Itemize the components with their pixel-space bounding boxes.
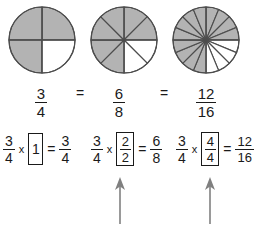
multiplication-row: 3 4 x 1 = 3 4 3 4 x 2 2 =	[0, 126, 256, 172]
boxed-multiplier-four-fourths: 4 4	[201, 132, 219, 166]
fraction-denominator: 4	[35, 103, 47, 119]
fraction-numerator: 3	[91, 134, 103, 149]
boxed-multiplier-two-halves: 2 2	[116, 132, 134, 166]
equals-symbol: =	[47, 142, 55, 156]
fraction-numerator: 3	[176, 134, 188, 149]
fraction-denominator: 4	[176, 150, 188, 165]
equals-symbol: =	[223, 142, 231, 156]
fraction-denominator: 16	[235, 150, 253, 164]
fraction-numerator: 12	[196, 86, 217, 102]
equation-fraction-six-eighths: 6 8	[102, 86, 136, 119]
equation-fraction-three-fourths: 3 4	[24, 86, 58, 119]
mult-result-fraction: 6 8	[150, 134, 162, 165]
boxed-fraction: 4 4	[205, 135, 216, 164]
equals-label: =	[160, 86, 168, 100]
arrow-to-four-fourths-icon	[202, 176, 218, 226]
fraction-numerator: 12	[235, 135, 253, 149]
equals-label: =	[76, 86, 84, 100]
equivalence-equation-row: 3 4 = 6 8 = 12 16	[0, 86, 256, 122]
fraction-denominator: 4	[91, 150, 103, 165]
boxed-value: 1	[32, 141, 40, 157]
mult-result-fraction: 12 16	[235, 135, 253, 164]
equation-equals-sign-2: =	[150, 86, 178, 100]
multiply-by-two-halves-expression: 3 4 x 2 2 = 6 8	[91, 126, 162, 172]
equation-equals-sign-1: =	[66, 86, 94, 100]
fraction-numerator: 3	[3, 134, 15, 149]
times-symbol: x	[192, 144, 198, 155]
pie-diagrams-row	[0, 0, 256, 84]
fraction-numerator: 2	[120, 135, 131, 149]
times-symbol: x	[19, 144, 25, 155]
pie-twelve-sixteenths	[172, 6, 240, 74]
mult-result-fraction: 3 4	[59, 134, 71, 165]
fraction-numerator: 3	[59, 134, 71, 149]
mult-left-fraction: 3 4	[91, 134, 103, 165]
multiply-by-one-expression: 3 4 x 1 = 3 4	[3, 126, 71, 172]
pie-six-eighths	[90, 6, 158, 74]
equals-symbol: =	[138, 142, 146, 156]
boxed-fraction: 2 2	[120, 135, 131, 164]
fraction-numerator: 6	[113, 86, 125, 102]
equation-fraction-twelve-sixteenths: 12 16	[186, 86, 226, 119]
multiply-by-four-fourths-expression: 3 4 x 4 4 = 12 16	[176, 126, 254, 172]
boxed-multiplier-one: 1	[28, 133, 43, 165]
fraction-denominator: 8	[113, 103, 125, 119]
mult-left-fraction: 3 4	[3, 134, 15, 165]
fraction-numerator: 6	[150, 134, 162, 149]
fraction-denominator: 4	[3, 150, 15, 165]
fraction-denominator: 4	[59, 150, 71, 165]
arrow-to-two-halves-icon	[112, 176, 128, 226]
times-symbol: x	[107, 144, 113, 155]
fraction-numerator: 3	[35, 86, 47, 102]
fraction-numerator: 4	[205, 135, 216, 149]
mult-left-fraction: 3 4	[176, 134, 188, 165]
fraction-denominator: 8	[150, 150, 162, 165]
fraction-denominator: 16	[196, 103, 217, 119]
pie-three-fourths	[8, 6, 76, 74]
fraction-denominator: 2	[120, 150, 131, 164]
arrows-layer	[0, 172, 256, 232]
fraction-denominator: 4	[205, 150, 216, 164]
